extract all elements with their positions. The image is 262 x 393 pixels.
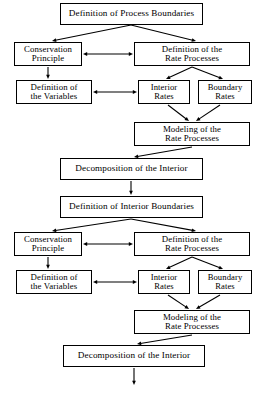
flowchart-node-label: Modeling of the Rate Processes (135, 313, 249, 332)
arrow-head (166, 266, 171, 269)
arrow-head (93, 90, 97, 94)
flowchart-node-label: Definition of Process Boundaries (61, 9, 202, 19)
flowchart-edge (196, 295, 220, 309)
flowchart-node-label: Interior Rates (139, 83, 189, 102)
flowchart-node-label: Decomposition of the Interior (64, 351, 204, 361)
arrow-line (192, 257, 220, 268)
arrow-head (46, 75, 50, 79)
flowchart-edge (134, 147, 192, 158)
arrow-line (168, 105, 186, 119)
arrow-head (93, 280, 97, 284)
flowchart-node-label: Boundary Rates (199, 273, 251, 292)
arrow-line (55, 219, 131, 230)
arrow-line (55, 25, 131, 40)
arrow-head (46, 265, 50, 269)
flowchart-node-label: Definition of the Variables (17, 83, 91, 102)
flowchart-node-label: Interior Rates (139, 273, 189, 292)
flowchart-node-label: Conservation Principle (15, 235, 81, 254)
arrow-line (199, 295, 220, 307)
flowchart-node-label: Definition of the Rate Processes (135, 235, 249, 254)
flowchart-edge (93, 280, 137, 284)
flowchart-node: Definition of Process Boundaries (60, 3, 203, 25)
flowchart-node: Definition of Interior Boundaries (60, 196, 203, 218)
flowchart-node: Definition of the Rate Processes (134, 42, 250, 66)
flowchart-node: Definition of the Variables (16, 270, 92, 294)
flowchart-diagram: Definition of Process BoundariesConserva… (0, 0, 262, 393)
arrow-head (133, 280, 137, 284)
flowchart-node: Boundary Rates (198, 80, 252, 104)
flowchart-edge (166, 257, 192, 269)
flowchart-edge (83, 52, 133, 56)
arrow-line (199, 105, 220, 119)
flowchart-edge (168, 105, 189, 121)
arrow-head (132, 381, 136, 385)
arrow-head (129, 191, 133, 195)
flowchart-edge (131, 25, 196, 42)
arrow-line (140, 335, 192, 343)
flowchart-edge (46, 257, 50, 269)
arrow-line (169, 257, 192, 268)
arrow-head (185, 117, 189, 121)
flowchart-edge (46, 67, 50, 79)
flowchart-node: Modeling of the Rate Processes (134, 310, 250, 334)
arrow-head (218, 266, 223, 269)
arrow-head (196, 117, 201, 121)
flowchart-node-label: Modeling of the Rate Processes (135, 125, 249, 144)
flowchart-node: Boundary Rates (198, 270, 252, 294)
flowchart-edge (52, 25, 131, 42)
arrow-line (169, 67, 192, 78)
arrow-line (168, 295, 186, 307)
flowchart-node-label: Decomposition of the Interior (61, 164, 202, 174)
flowchart-node: Modeling of the Rate Processes (134, 122, 250, 146)
flowchart-edge (137, 335, 192, 345)
flowchart-edge (93, 90, 137, 94)
flowchart-node: Definition of the Variables (16, 80, 92, 104)
flowchart-node: Decomposition of the Interior (63, 345, 205, 367)
flowchart-edge (132, 368, 136, 385)
arrow-head (83, 242, 87, 246)
arrow-head (129, 242, 133, 246)
arrow-head (133, 90, 137, 94)
flowchart-edge (52, 219, 131, 232)
flowchart-node-label: Definition of Interior Boundaries (61, 202, 202, 212)
flowchart-node-label: Conservation Principle (15, 45, 81, 64)
flowchart-node: Definition of the Rate Processes (134, 232, 250, 256)
flowchart-node: Interior Rates (138, 80, 190, 104)
flowchart-edge (166, 67, 192, 79)
arrow-head (166, 76, 171, 79)
arrow-head (83, 52, 87, 56)
flowchart-node-label: Definition of the Variables (17, 273, 91, 292)
flowchart-node: Interior Rates (138, 270, 190, 294)
flowchart-edge (129, 181, 133, 195)
flowchart-edge (131, 219, 196, 232)
arrow-line (137, 147, 192, 156)
flowchart-node-label: Definition of the Rate Processes (135, 45, 249, 64)
arrow-head (218, 76, 223, 79)
flowchart-edge (83, 242, 133, 246)
flowchart-edge (192, 257, 223, 269)
arrow-line (131, 219, 193, 230)
flowchart-edge (192, 67, 223, 79)
arrow-line (131, 25, 193, 40)
arrow-head (196, 305, 201, 309)
flowchart-edge (168, 295, 189, 309)
flowchart-node: Conservation Principle (14, 42, 82, 66)
flowchart-node: Decomposition of the Interior (60, 158, 203, 180)
flowchart-node-label: Boundary Rates (199, 83, 251, 102)
arrow-head (129, 52, 133, 56)
flowchart-node: Conservation Principle (14, 232, 82, 256)
arrow-line (192, 67, 220, 78)
flowchart-edge (196, 105, 220, 121)
arrow-head (184, 305, 189, 309)
